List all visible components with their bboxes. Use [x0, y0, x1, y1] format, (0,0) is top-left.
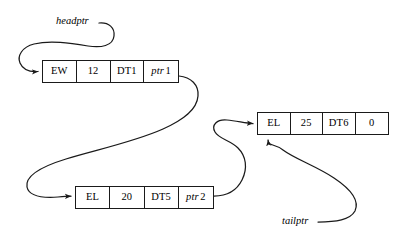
- tailptr-arrow: [268, 140, 356, 222]
- node-2-data-field: DT5: [145, 187, 179, 208]
- headptr-label: headptr: [56, 16, 89, 27]
- node-3-count-field: 25: [291, 113, 324, 134]
- node1-next-arrow: [27, 76, 198, 197]
- list-node-2[interactable]: EL 20 DT5 ptr2: [75, 186, 214, 209]
- node-3-next-pointer-field: 0: [356, 113, 388, 134]
- node-2-next-pointer-index: 2: [199, 192, 206, 203]
- list-node-1[interactable]: EW 12 DT1 ptr1: [42, 60, 179, 83]
- node-1-data-field: DT1: [111, 61, 145, 82]
- tailptr-label: tailptr: [282, 216, 308, 227]
- node-1-name-field: EW: [43, 61, 77, 82]
- node-1-next-pointer-field: ptr1: [144, 61, 178, 82]
- list-node-3[interactable]: EL 25 DT6 0: [257, 112, 389, 135]
- node2-next-arrow: [214, 120, 253, 196]
- node-1-next-pointer-index: 1: [164, 66, 171, 77]
- node-2-next-pointer-text: ptr: [186, 192, 199, 203]
- node-3-name-field: EL: [258, 113, 291, 134]
- node-1-next-pointer-text: ptr: [151, 66, 164, 77]
- node-2-next-pointer-field: ptr2: [179, 187, 213, 208]
- node-2-name-field: EL: [76, 187, 110, 208]
- node-3-data-field: DT6: [323, 113, 356, 134]
- node-2-count-field: 20: [110, 187, 144, 208]
- node-1-count-field: 12: [77, 61, 111, 82]
